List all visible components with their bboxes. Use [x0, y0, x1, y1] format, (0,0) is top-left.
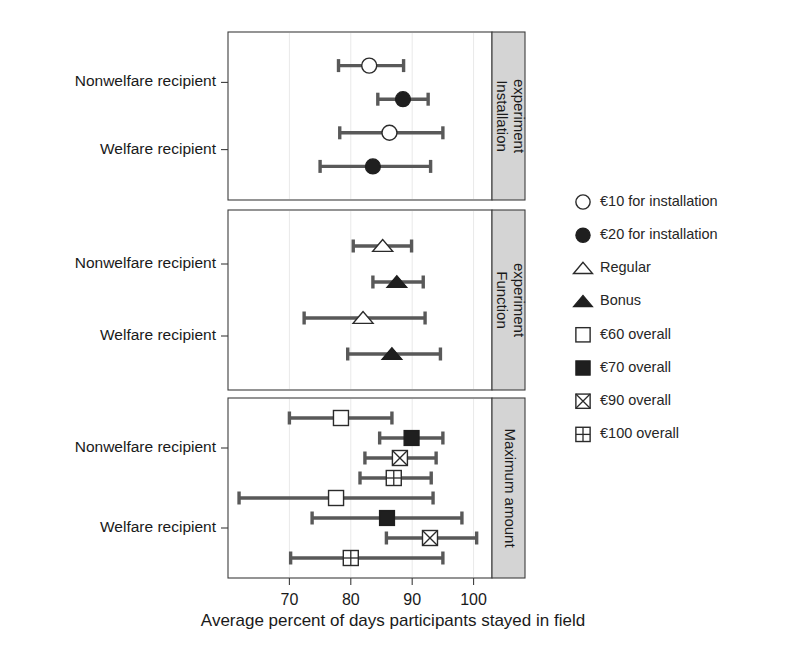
legend-item[interactable]: Regular: [574, 259, 651, 275]
panel-frame: [228, 210, 492, 390]
panel-1: InstallationexperimentNonwelfare recipie…: [75, 32, 528, 200]
x-axis-tick-label: 80: [342, 591, 360, 608]
chart-svg: InstallationexperimentNonwelfare recipie…: [0, 0, 786, 649]
legend-label: €60 overall: [600, 326, 671, 342]
panel-strip-label: Function: [494, 271, 511, 329]
legend-label: €20 for installation: [600, 226, 718, 242]
legend-label: €70 overall: [600, 359, 671, 375]
legend-layer: €10 for installation€20 for installation…: [574, 193, 718, 442]
panel-strip-label-2: experiment: [511, 79, 528, 154]
panel-3: Maximum amountNonwelfare recipientWelfar…: [75, 398, 525, 578]
legend-item[interactable]: €20 for installation: [576, 226, 718, 242]
legend-item[interactable]: €90 overall: [576, 392, 671, 408]
legend-item[interactable]: €10 for installation: [576, 193, 718, 209]
y-axis-label-nonwelfare: Nonwelfare recipient: [75, 254, 217, 271]
legend-label: €90 overall: [600, 392, 671, 408]
panel-strip-label-2: experiment: [511, 263, 528, 338]
x-axis-layer: 708090100: [280, 578, 487, 608]
legend-label: €10 for installation: [600, 193, 718, 209]
y-axis-label-welfare: Welfare recipient: [100, 326, 217, 343]
y-axis-label-welfare: Welfare recipient: [100, 518, 217, 535]
panel-2: FunctionexperimentNonwelfare recipientWe…: [75, 210, 528, 390]
panel-frame: [228, 32, 492, 200]
panel-strip-label: Installation: [494, 80, 511, 152]
legend-item[interactable]: €100 overall: [576, 425, 679, 441]
x-axis-tick-label: 100: [460, 591, 487, 608]
y-axis-label-nonwelfare: Nonwelfare recipient: [75, 438, 217, 455]
legend-item[interactable]: Bonus: [574, 292, 642, 308]
chart-figure: InstallationexperimentNonwelfare recipie…: [0, 0, 786, 649]
y-axis-label-nonwelfare: Nonwelfare recipient: [75, 72, 217, 89]
x-axis-title: Average percent of days participants sta…: [201, 611, 585, 630]
legend-item[interactable]: €60 overall: [576, 326, 671, 342]
legend-label: Bonus: [600, 292, 641, 308]
legend-label: €100 overall: [600, 425, 679, 441]
panels-layer: InstallationexperimentNonwelfare recipie…: [75, 32, 528, 578]
panel-frame: [228, 398, 492, 578]
panel-strip-label: Maximum amount: [502, 428, 519, 548]
legend-label: Regular: [600, 259, 651, 275]
x-axis-tick-label: 90: [403, 591, 421, 608]
x-axis-tick-label: 70: [280, 591, 298, 608]
y-axis-label-welfare: Welfare recipient: [100, 140, 217, 157]
legend-item[interactable]: €70 overall: [576, 359, 671, 375]
